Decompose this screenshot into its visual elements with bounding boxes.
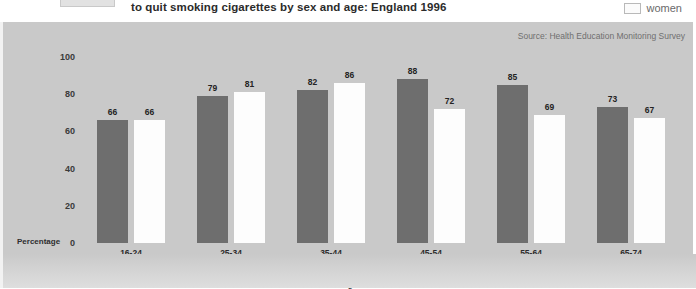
chart-header: to quit smoking cigarettes by sex and ag… bbox=[0, 0, 693, 22]
bar-women-45-54 bbox=[434, 109, 465, 243]
bar-women-55-64 bbox=[534, 115, 565, 243]
y-axis-tick-80: 80 bbox=[65, 89, 75, 99]
bar-men-25-34 bbox=[197, 96, 228, 243]
bar-group-35-44: 828635-44 bbox=[281, 22, 381, 288]
bar-men-55-64 bbox=[497, 85, 528, 243]
x-axis-title: Age bbox=[3, 280, 696, 289]
y-axis-title: Percentage bbox=[17, 237, 60, 246]
y-axis-tick-labels: 020406080100 bbox=[47, 22, 75, 288]
y-axis-tick-0: 0 bbox=[70, 238, 75, 248]
bar-men-16-24 bbox=[97, 120, 128, 243]
bar-value-label-women-35-44: 86 bbox=[334, 70, 365, 80]
bar-group-65-74: 736765-74 bbox=[581, 22, 681, 288]
bar-women-65-74 bbox=[634, 118, 665, 243]
y-axis-tick-60: 60 bbox=[65, 126, 75, 136]
bar-group-25-34: 798125-34 bbox=[181, 22, 281, 288]
chart-title: to quit smoking cigarettes by sex and ag… bbox=[131, 1, 446, 13]
bar-group-16-24: 666616-24 bbox=[81, 22, 181, 288]
y-axis-tick-40: 40 bbox=[65, 164, 75, 174]
bar-value-label-men-35-44: 82 bbox=[297, 77, 328, 87]
x-axis-category-16-24: 16-24 bbox=[81, 248, 181, 258]
bar-value-label-men-16-24: 66 bbox=[97, 107, 128, 117]
bar-women-16-24 bbox=[134, 120, 165, 243]
x-axis-category-65-74: 65-74 bbox=[581, 248, 681, 258]
x-axis-category-45-54: 45-54 bbox=[381, 248, 481, 258]
bar-women-25-34 bbox=[234, 92, 265, 243]
chart-panel: Source: Health Education Monitoring Surv… bbox=[0, 22, 693, 288]
bar-value-label-men-45-54: 88 bbox=[397, 66, 428, 76]
bar-group-55-64: 856955-64 bbox=[481, 22, 581, 288]
legend-item-men-clipped bbox=[60, 0, 115, 7]
bar-value-label-women-16-24: 66 bbox=[134, 107, 165, 117]
bar-men-65-74 bbox=[597, 107, 628, 243]
bar-value-label-men-65-74: 73 bbox=[597, 94, 628, 104]
bar-value-label-women-65-74: 67 bbox=[634, 105, 665, 115]
bar-women-35-44 bbox=[334, 83, 365, 243]
bar-group-45-54: 887245-54 bbox=[381, 22, 481, 288]
plot-area: 020406080100 Percentage 666616-24798125-… bbox=[3, 22, 696, 288]
y-axis-tick-20: 20 bbox=[65, 201, 75, 211]
bar-value-label-women-55-64: 69 bbox=[534, 102, 565, 112]
bar-value-label-men-55-64: 85 bbox=[497, 72, 528, 82]
x-axis-category-35-44: 35-44 bbox=[281, 248, 381, 258]
bar-men-35-44 bbox=[297, 90, 328, 243]
x-axis-category-25-34: 25-34 bbox=[181, 248, 281, 258]
legend-label-women: women bbox=[647, 2, 682, 14]
bar-value-label-women-25-34: 81 bbox=[234, 79, 265, 89]
x-axis-category-55-64: 55-64 bbox=[481, 248, 581, 258]
legend-item-women[interactable]: women bbox=[624, 1, 682, 15]
y-axis-tick-100: 100 bbox=[60, 52, 75, 62]
bar-men-45-54 bbox=[397, 79, 428, 243]
bar-value-label-men-25-34: 79 bbox=[197, 83, 228, 93]
bar-value-label-women-45-54: 72 bbox=[434, 96, 465, 106]
legend-swatch-women-icon bbox=[624, 3, 641, 14]
bar-groups: 666616-24798125-34828635-44887245-548569… bbox=[81, 22, 681, 288]
